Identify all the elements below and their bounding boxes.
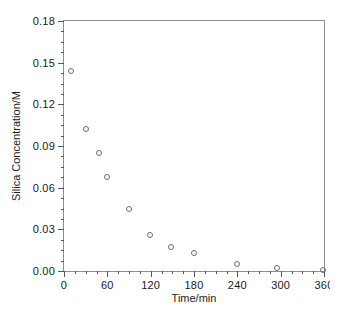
y-axis-title-text: Silica Concentration/M — [10, 91, 22, 201]
x-axis-tick — [64, 271, 65, 277]
data-point — [234, 261, 240, 267]
x-axis-tick-label: 300 — [271, 279, 290, 291]
x-axis-minor-tick — [129, 271, 130, 274]
y-axis-minor-tick — [61, 219, 64, 220]
y-axis-minor-tick — [61, 250, 64, 251]
x-axis-tick — [237, 271, 238, 277]
y-axis-tick — [58, 229, 64, 230]
y-axis-minor-tick — [61, 84, 64, 85]
x-axis-minor-tick — [270, 271, 271, 274]
y-axis-minor-tick — [61, 94, 64, 95]
y-axis-title: Silica Concentration/M — [8, 20, 24, 272]
y-axis-minor-tick — [61, 125, 64, 126]
x-axis-minor-tick — [140, 271, 141, 274]
y-axis-minor-tick — [61, 177, 64, 178]
x-axis-tick — [107, 271, 108, 277]
y-axis-minor-tick — [61, 115, 64, 116]
y-axis-tick-label: 0.00 — [33, 265, 55, 277]
x-axis-tick — [151, 271, 152, 277]
y-axis-tick-label: 0.15 — [33, 57, 55, 69]
data-point — [168, 244, 174, 250]
x-axis-tick — [281, 271, 282, 277]
y-axis-minor-tick — [61, 198, 64, 199]
x-axis-minor-tick — [183, 271, 184, 274]
right-edge-clip-mask — [330, 272, 340, 302]
plot-area: 0.000.030.060.090.120.150.18060120180240… — [63, 20, 325, 272]
y-axis-tick-label: 0.18 — [33, 15, 55, 27]
x-axis-minor-tick — [227, 271, 228, 274]
x-axis-minor-tick — [205, 271, 206, 274]
y-axis-tick — [58, 188, 64, 189]
x-axis-minor-tick — [75, 271, 76, 274]
y-axis-tick — [58, 146, 64, 147]
y-axis-minor-tick — [61, 167, 64, 168]
x-axis-title: Time/min — [63, 292, 325, 304]
data-point — [83, 126, 89, 132]
x-axis-minor-tick — [259, 271, 260, 274]
y-axis-minor-tick — [61, 156, 64, 157]
data-point — [104, 174, 110, 180]
y-axis-minor-tick — [61, 42, 64, 43]
data-point — [126, 206, 132, 212]
y-axis-tick — [58, 63, 64, 64]
y-axis-minor-tick — [61, 209, 64, 210]
x-axis-minor-tick — [118, 271, 119, 274]
data-point — [191, 250, 197, 256]
y-axis-tick — [58, 21, 64, 22]
x-axis-minor-tick — [162, 271, 163, 274]
y-axis-minor-tick — [61, 52, 64, 53]
data-point — [274, 265, 280, 271]
x-axis-minor-tick — [248, 271, 249, 274]
x-axis-minor-tick — [86, 271, 87, 274]
x-axis-tick-label: 180 — [185, 279, 204, 291]
x-axis-minor-tick — [302, 271, 303, 274]
y-axis-minor-tick — [61, 73, 64, 74]
data-point — [96, 150, 102, 156]
data-point — [68, 68, 74, 74]
y-axis-tick-label: 0.03 — [33, 223, 55, 235]
data-point — [320, 267, 326, 273]
x-axis-minor-tick — [313, 271, 314, 274]
x-axis-tick-label: 0 — [61, 279, 67, 291]
x-axis-minor-tick — [172, 271, 173, 274]
y-axis-tick — [58, 104, 64, 105]
y-axis-tick-label: 0.06 — [33, 182, 55, 194]
x-axis-minor-tick — [216, 271, 217, 274]
y-axis-minor-tick — [61, 31, 64, 32]
y-axis-minor-tick — [61, 261, 64, 262]
x-axis-minor-tick — [292, 271, 293, 274]
chart-figure: Silica Concentration/M 0.000.030.060.090… — [0, 0, 340, 315]
x-axis-tick-label: 240 — [228, 279, 247, 291]
x-axis-tick-label: 120 — [141, 279, 160, 291]
y-axis-tick-label: 0.09 — [33, 140, 55, 152]
x-axis-tick-label: 60 — [101, 279, 114, 291]
data-point — [147, 232, 153, 238]
x-axis-tick — [194, 271, 195, 277]
y-axis-tick-label: 0.12 — [33, 98, 55, 110]
y-axis-minor-tick — [61, 136, 64, 137]
y-axis-minor-tick — [61, 240, 64, 241]
x-axis-minor-tick — [97, 271, 98, 274]
